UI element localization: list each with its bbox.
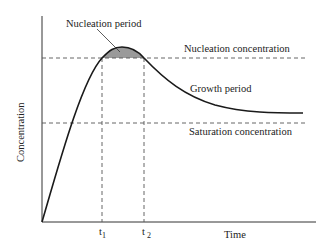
- growth-period-label: Growth period: [190, 83, 252, 94]
- t2-subscript: 2: [147, 231, 151, 240]
- nucleation-period-label: Nucleation period: [66, 18, 142, 29]
- t1-subscript: 1: [102, 231, 106, 240]
- saturation-concentration-label: Saturation concentration: [189, 126, 293, 137]
- t2-base: t: [142, 226, 145, 237]
- lamer-diagram: Nucleation period Nucleation concentrati…: [0, 0, 328, 248]
- nucleation-period-pointer: [97, 29, 120, 52]
- nucleation-concentration-label: Nucleation concentration: [184, 43, 291, 54]
- time-axis-label: Time: [224, 229, 246, 240]
- t1-label: t1: [99, 226, 106, 240]
- concentration-axis-label: Concentration: [15, 102, 26, 162]
- t2-label: t2: [142, 226, 151, 240]
